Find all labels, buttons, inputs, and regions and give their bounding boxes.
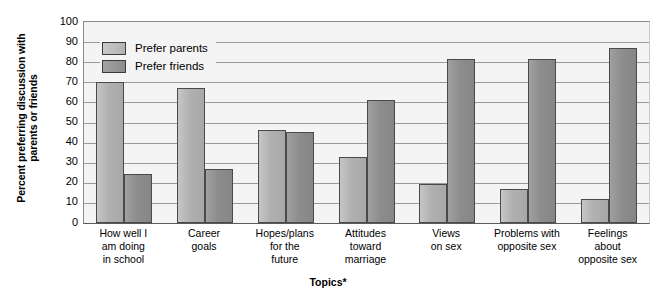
bar-friends: [205, 169, 233, 223]
y-tick-label: 30: [50, 156, 78, 167]
y-tick-label: 70: [50, 76, 78, 87]
y-axis-title: Percent preferring discussion with paren…: [10, 8, 44, 228]
y-tick-label: 10: [50, 196, 78, 207]
x-category-label: Problems with opposite sex: [487, 227, 568, 253]
y-tick-label: 20: [50, 176, 78, 187]
chart-legend: Prefer parents Prefer friends: [100, 37, 216, 78]
bar-chart: Percent preferring discussion with paren…: [0, 0, 656, 292]
bar-parents: [177, 88, 205, 223]
x-category-label: Hopes/plans for the future: [244, 227, 325, 266]
y-tick-label: 0: [50, 217, 78, 228]
y-tick-label: 40: [50, 136, 78, 147]
x-category-label: Attitudes toward marriage: [325, 227, 406, 266]
y-tick-label: 90: [50, 36, 78, 47]
y-axis-tick-labels: 0102030405060708090100: [50, 21, 78, 222]
bar-parents: [258, 130, 286, 223]
legend-item-prefer-friends: Prefer friends: [102, 57, 208, 75]
bar-parents: [500, 189, 528, 223]
y-tick-label: 50: [50, 116, 78, 127]
legend-label-friends: Prefer friends: [135, 60, 204, 72]
legend-label-parents: Prefer parents: [135, 42, 208, 54]
x-category-label: Career goals: [164, 227, 245, 253]
y-tick-label: 60: [50, 96, 78, 107]
bar-friends: [447, 59, 475, 223]
bar-friends: [124, 174, 152, 223]
y-tick-label: 100: [50, 16, 78, 27]
x-category-label: Views on sex: [406, 227, 487, 253]
legend-swatch-icon-friends: [102, 60, 126, 73]
bar-parents: [581, 199, 609, 223]
bar-parents: [96, 82, 124, 223]
bar-friends: [286, 132, 314, 223]
bar-parents: [419, 184, 447, 223]
x-axis-title: Topics*: [0, 276, 656, 288]
x-category-label: How well I am doing in school: [83, 227, 164, 266]
legend-swatch-icon-parents: [102, 42, 126, 55]
bar-friends: [367, 100, 395, 223]
legend-item-prefer-parents: Prefer parents: [102, 39, 208, 57]
bar-parents: [339, 157, 367, 223]
x-category-label: Feelings about opposite sex: [567, 227, 648, 266]
y-tick-label: 80: [50, 56, 78, 67]
bar-friends: [609, 48, 637, 223]
bar-friends: [528, 59, 556, 223]
x-axis-category-labels: How well I am doing in schoolCareer goal…: [83, 227, 648, 277]
plot-area: Prefer parents Prefer friends: [83, 21, 650, 224]
